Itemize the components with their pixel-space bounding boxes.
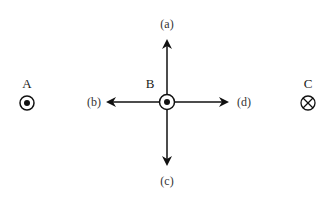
wire-c-label: C: [304, 77, 313, 90]
wire-a-dot-icon: [20, 96, 34, 110]
wire-c-cross-icon: [301, 96, 315, 110]
diagram-canvas: A B C (a) (b) (c) (d): [0, 0, 334, 200]
wire-b-dot-icon: [160, 95, 175, 110]
direction-a-label: (a): [160, 18, 173, 31]
direction-d-label: (d): [237, 96, 251, 109]
wire-a-label: A: [22, 77, 31, 90]
direction-b-label: (b): [87, 96, 101, 109]
wire-b-label: B: [146, 77, 155, 90]
direction-c-label: (c): [160, 175, 173, 188]
